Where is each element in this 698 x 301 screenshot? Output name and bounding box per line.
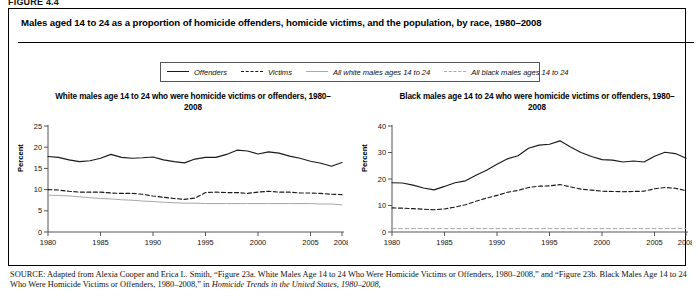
x-tick-label: 1995 — [197, 238, 213, 247]
x-tick-label: 1995 — [541, 238, 557, 247]
source-prefix: SOURCE: — [10, 270, 45, 279]
x-tick-label: 2005 — [302, 238, 318, 247]
x-tick-label: 1980 — [40, 238, 56, 247]
figure-number-label: FIGURE 4.4 — [8, 0, 59, 7]
chart-legend: OffendersVictimsAll white males ages 14 … — [160, 62, 540, 82]
panel-white-males: White males age 14 to 24 who were homici… — [18, 92, 348, 262]
x-tick-label: 1985 — [436, 238, 452, 247]
source-note: SOURCE: Adapted from Alexia Cooper and E… — [10, 270, 688, 291]
x-tick-label: 2000 — [250, 238, 266, 247]
legend-line-swatch-icon — [241, 68, 263, 76]
series-line-0 — [48, 150, 342, 166]
legend-item-2: All white males ages 14 to 24 — [306, 68, 430, 77]
y-tick-label: 30 — [378, 148, 386, 157]
x-tick-label: 2008 — [334, 238, 348, 247]
x-tick-label: 1985 — [92, 238, 108, 247]
plot-area-white: Percent 05101520251980198519901995200020… — [18, 120, 348, 262]
x-tick-label: 1990 — [489, 238, 505, 247]
legend-item-3: All black males ages 14 to 24 — [444, 68, 568, 77]
legend-line-swatch-icon — [306, 68, 328, 76]
legend-label: All white males ages 14 to 24 — [333, 68, 430, 77]
y-tick-label: 5 — [38, 206, 42, 215]
legend-item-0: Offenders — [167, 68, 227, 77]
x-tick-label: 2000 — [594, 238, 610, 247]
figure-page: FIGURE 4.4 Males aged 14 to 24 as a prop… — [0, 0, 698, 301]
x-tick-label: 1980 — [384, 238, 400, 247]
panel-title-white: White males age 14 to 24 who were homici… — [48, 92, 338, 113]
y-tick-label: 40 — [378, 122, 386, 131]
y-tick-label: 20 — [378, 175, 386, 184]
y-tick-label: 0 — [382, 228, 386, 237]
source-line1: Adapted from Alexia Cooper and Erica L. … — [45, 270, 538, 279]
panel-black-males: Black males age 14 to 24 who were homici… — [362, 92, 692, 262]
legend-label: Offenders — [194, 68, 227, 77]
x-tick-label: 1990 — [145, 238, 161, 247]
y-tick-label: 10 — [34, 185, 42, 194]
title-divider — [18, 42, 694, 43]
figure-title: Males aged 14 to 24 as a proportion of h… — [21, 17, 671, 29]
x-tick-label: 2008 — [678, 238, 692, 247]
y-tick-label: 25 — [34, 122, 42, 131]
y-tick-label: 20 — [34, 143, 42, 152]
y-tick-label: 15 — [34, 164, 42, 173]
legend-line-swatch-icon — [167, 68, 189, 76]
series-line-0 — [392, 141, 686, 190]
source-publication-title: Homicide Trends in the United States, 19… — [212, 280, 381, 289]
y-tick-label: 10 — [378, 201, 386, 210]
series-line-2 — [48, 195, 342, 205]
legend-item-1: Victims — [241, 68, 292, 77]
plot-area-black: Percent 01020304019801985199019952000200… — [362, 120, 692, 262]
panel-title-black: Black males age 14 to 24 who were homici… — [392, 92, 682, 113]
series-line-1 — [392, 185, 686, 210]
y-tick-label: 0 — [38, 228, 42, 237]
legend-label: All black males ages 14 to 24 — [471, 68, 568, 77]
line-chart-white: 05101520251980198519901995200020052008 — [18, 120, 348, 262]
line-chart-black: 0102030401980198519901995200020052008 — [362, 120, 692, 262]
legend-line-swatch-icon — [444, 68, 466, 76]
legend-label: Victims — [268, 68, 292, 77]
x-tick-label: 2005 — [646, 238, 662, 247]
